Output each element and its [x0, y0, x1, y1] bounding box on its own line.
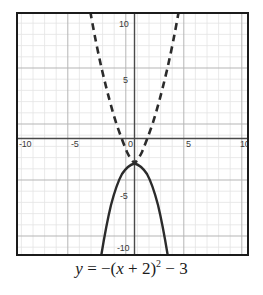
caption-plus: +: [128, 259, 138, 278]
equation-caption: y = −(x + 2)2 − 3: [0, 259, 263, 279]
caption-outer-const: 3: [179, 259, 188, 278]
x-tick-label-zero: 0: [128, 140, 133, 149]
graph-figure: -10 -5 0 5 10 10 5 -5 -10 y = −(x + 2)2 …: [0, 0, 263, 295]
caption-var: x: [116, 259, 124, 278]
y-tick-label-10: 10: [119, 20, 129, 29]
caption-minus: −: [165, 259, 175, 278]
x-tick-label-neg5: -5: [71, 140, 79, 149]
x-tick-label-10: 10: [240, 140, 249, 149]
major-gridlines: [18, 14, 247, 254]
caption-rhs-prefix: −(: [101, 259, 116, 278]
caption-lhs: y: [75, 259, 83, 278]
minor-gridlines: [18, 14, 247, 254]
y-tick-label-neg10: -10: [117, 244, 129, 253]
plot-area: -10 -5 0 5 10 10 5 -5 -10: [16, 12, 249, 256]
plot-canvas: [18, 14, 247, 254]
x-tick-label-5: 5: [186, 140, 191, 149]
y-tick-label-5: 5: [123, 76, 128, 85]
x-tick-label-neg10: -10: [19, 140, 31, 149]
y-tick-label-neg5: -5: [120, 192, 128, 201]
caption-equals: =: [87, 259, 97, 278]
axes-lines: [18, 14, 247, 254]
